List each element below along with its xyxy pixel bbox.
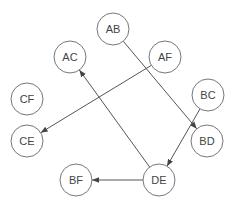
- node-ac: AC: [54, 41, 86, 73]
- nodes-layer: ABACAFCFCEBCBDBFDE: [11, 13, 224, 196]
- node-bc: BC: [192, 79, 224, 111]
- node-label: BF: [69, 174, 83, 186]
- node-label: BD: [199, 135, 214, 147]
- node-label: DE: [151, 174, 166, 186]
- edge-de-to-ac: [79, 70, 149, 167]
- graph-canvas: ABACAFCFCEBCBDBFDE: [0, 0, 238, 209]
- node-cf: CF: [11, 83, 43, 115]
- node-af: AF: [149, 41, 181, 73]
- edge-af-to-ce: [41, 65, 152, 132]
- node-de: DE: [143, 164, 175, 196]
- node-bd: BD: [191, 125, 223, 157]
- node-label: AC: [62, 51, 77, 63]
- node-label: AB: [106, 23, 121, 35]
- node-label: CF: [20, 93, 35, 105]
- node-label: CE: [19, 135, 34, 147]
- node-ce: CE: [11, 125, 43, 157]
- node-label: BC: [200, 89, 215, 101]
- node-label: AF: [158, 51, 172, 63]
- node-ab: AB: [97, 13, 129, 45]
- node-bf: BF: [60, 164, 92, 196]
